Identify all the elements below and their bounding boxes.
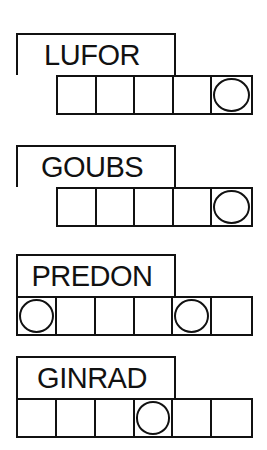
answer-cell-3[interactable] — [135, 189, 174, 225]
answer-cells — [16, 296, 253, 336]
answer-cell-2[interactable] — [57, 400, 96, 436]
scrambled-word: PREDON — [31, 262, 152, 291]
scrambled-word-box: LUFOR — [16, 33, 176, 75]
answer-cells — [56, 187, 253, 227]
scrambled-word: GOUBS — [41, 153, 143, 182]
answer-cell-2[interactable] — [57, 298, 96, 334]
answer-cell-1[interactable] — [58, 189, 97, 225]
answer-cell-5[interactable] — [173, 400, 212, 436]
answer-cells — [16, 398, 253, 438]
answer-cell-1-circled[interactable] — [18, 298, 57, 334]
scrambled-word: GINRAD — [37, 364, 147, 393]
answer-cell-3[interactable] — [96, 298, 135, 334]
answer-cell-6[interactable] — [212, 298, 251, 334]
circle-marker-icon — [19, 299, 54, 333]
answer-cell-2[interactable] — [97, 189, 136, 225]
answer-cell-3[interactable] — [96, 400, 135, 436]
scrambled-word: LUFOR — [44, 41, 140, 70]
answer-cell-1[interactable] — [18, 400, 57, 436]
answer-cells — [56, 75, 253, 115]
answer-cell-4-circled[interactable] — [135, 400, 174, 436]
scrambled-word-box: GINRAD — [16, 356, 176, 398]
answer-cell-5-circled[interactable] — [212, 77, 251, 113]
answer-cell-4[interactable] — [174, 189, 213, 225]
answer-cell-6[interactable] — [212, 400, 251, 436]
answer-cell-5-circled[interactable] — [173, 298, 212, 334]
answer-cell-3[interactable] — [135, 77, 174, 113]
scrambled-word-box: PREDON — [16, 254, 176, 296]
circle-marker-icon — [213, 190, 250, 224]
answer-cell-1[interactable] — [58, 77, 97, 113]
answer-cell-4[interactable] — [135, 298, 174, 334]
answer-cell-5-circled[interactable] — [212, 189, 251, 225]
answer-cell-4[interactable] — [174, 77, 213, 113]
circle-marker-icon — [136, 401, 171, 435]
circle-marker-icon — [213, 78, 250, 112]
answer-cell-2[interactable] — [97, 77, 136, 113]
circle-marker-icon — [174, 299, 209, 333]
scrambled-word-box: GOUBS — [16, 145, 176, 187]
